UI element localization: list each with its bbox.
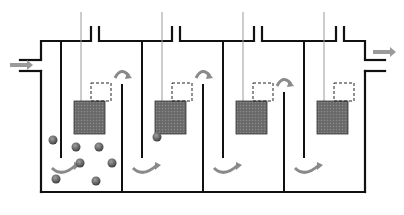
block-u1 — [74, 101, 105, 134]
top-wall-seg-5 — [344, 27, 365, 59]
top-wall-seg-2 — [99, 27, 172, 41]
block-u3 — [236, 101, 267, 134]
dashed-box-u4 — [334, 83, 354, 101]
block-u2 — [155, 101, 186, 134]
particles — [49, 133, 162, 186]
underflow-arrows — [52, 165, 319, 172]
curved-arrow-icon — [133, 165, 157, 172]
dashed-box-u2 — [172, 83, 192, 101]
top-wall-seg-4 — [262, 27, 336, 41]
reactor-diagram — [0, 0, 404, 215]
left-wall-top — [41, 27, 91, 59]
block-u4 — [317, 101, 348, 134]
dashed-box-u3 — [253, 83, 273, 101]
arrow-right-icon — [373, 50, 391, 54]
hanging-baffles — [61, 41, 304, 158]
weirs — [122, 84, 284, 192]
curved-arrow-icon — [52, 165, 76, 172]
inlet-arrow — [10, 60, 33, 70]
dashed-box-u1 — [91, 83, 111, 101]
curved-arrow-icon — [295, 165, 319, 172]
outlet-arrow — [373, 47, 396, 57]
arrow-right-icon — [10, 63, 28, 67]
curved-arrow-icon — [214, 165, 238, 172]
blocks — [74, 101, 348, 134]
